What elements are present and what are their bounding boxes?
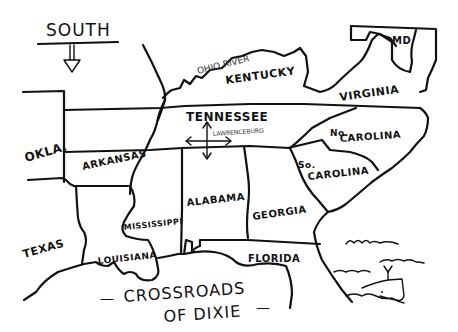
label-oklahoma: OKLA. — [23, 139, 69, 165]
label-louisiana: LOUISIANA — [97, 250, 157, 266]
compass: SOUTH — [38, 20, 118, 72]
label-mississippi: MISSISSIPPI — [123, 217, 183, 232]
ms-al-border — [181, 148, 182, 254]
label-south-carolina-2: CAROLINA — [307, 165, 369, 182]
ocean-decoration — [334, 241, 424, 304]
ky-va-border — [304, 34, 396, 92]
maryland-outline — [351, 26, 416, 72]
label-lawrenceburg: LAWRENCEBURG — [213, 126, 265, 137]
sc-coast — [328, 182, 372, 212]
crossroads-of-dixie-map: SOUTH — [0, 0, 458, 332]
compass-underline — [38, 42, 118, 44]
lawrenceburg-marker — [186, 122, 231, 159]
arrow-down-icon — [64, 45, 80, 72]
label-maryland: MD — [392, 35, 411, 46]
label-virginia: VIRGINIA — [339, 83, 400, 104]
label-south-carolina-1: So. — [298, 160, 316, 170]
ms-coast — [158, 254, 184, 258]
oklahoma-top-border — [23, 91, 64, 110]
label-north-carolina-2: CAROLINA — [339, 129, 401, 144]
label-kentucky: KENTUCKY — [225, 64, 297, 87]
wave-icon — [346, 294, 404, 303]
map-title: — CROSSROADS OF DIXIE — — [100, 279, 271, 326]
texas-coast — [24, 264, 84, 300]
texas-louisiana-border — [76, 186, 86, 264]
label-alabama: ALABAMA — [186, 191, 245, 208]
mississippi-river-middle — [130, 100, 165, 194]
label-florida: FLORIDA — [248, 253, 300, 264]
louisiana-outline — [84, 186, 158, 280]
label-texas: TEXAS — [21, 237, 65, 261]
label-tennessee: TENNESSEE — [186, 110, 268, 124]
ga-fl-east-coast — [314, 212, 352, 302]
compass-label: SOUTH — [46, 20, 111, 40]
wave-icon — [380, 260, 424, 264]
title-line-2: OF DIXIE — [163, 302, 242, 326]
label-georgia: GEORGIA — [252, 204, 307, 222]
al-ga-border — [244, 146, 249, 238]
title-dash-left: — — [100, 290, 115, 306]
wave-icon — [346, 241, 398, 245]
nc-coast — [372, 108, 428, 182]
wave-icon — [334, 271, 370, 273]
oklahoma-texas-line — [28, 178, 74, 186]
title-dash-right: — — [256, 299, 271, 315]
